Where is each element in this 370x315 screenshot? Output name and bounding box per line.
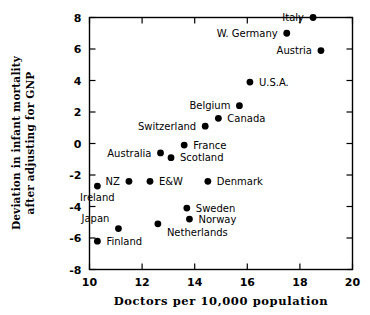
data-point-label: Japan [81, 213, 110, 224]
data-marker [181, 142, 188, 149]
x-axis-title: Doctors per 10,000 population [114, 294, 329, 308]
data-point-labels: ItalyW. GermanyAustriaU.S.A.BelgiumCanad… [80, 12, 312, 247]
data-marker [94, 238, 101, 245]
data-marker [115, 225, 122, 232]
data-point-label: NZ [106, 176, 120, 187]
data-marker [283, 30, 290, 37]
data-point-label: Netherlands [167, 227, 228, 238]
data-marker [310, 14, 317, 21]
data-point-label: U.S.A. [259, 77, 289, 88]
data-point-label: Finland [106, 236, 142, 247]
y-axis-title-group: Deviation in infant mortality after adju… [10, 55, 36, 230]
data-point-label: Norway [198, 214, 236, 225]
x-tick-label: 10 [82, 276, 98, 289]
data-marker [183, 205, 190, 212]
x-tick-label: 12 [134, 276, 149, 289]
data-point-label: Switzerland [138, 121, 196, 132]
data-point-label: Denmark [217, 176, 263, 187]
data-marker [168, 154, 175, 161]
y-tick-label: -2 [69, 169, 81, 182]
data-point-label: Sweden [196, 203, 236, 214]
data-point-label: Canada [227, 113, 265, 124]
y-tick-label: -6 [69, 232, 82, 245]
x-axis-tick-labels: 101214161820 [82, 276, 361, 289]
data-marker [94, 183, 101, 190]
data-marker [236, 102, 243, 109]
y-axis-title-line1: Deviation in infant mortality [10, 55, 22, 230]
y-tick-label: 8 [74, 12, 82, 25]
data-point-label: E&W [159, 176, 183, 187]
x-tick-label: 18 [292, 276, 307, 289]
data-marker [318, 47, 325, 54]
x-tick-label: 14 [187, 276, 203, 289]
data-point-label: Ireland [80, 192, 115, 203]
y-tick-label: 4 [74, 75, 82, 88]
x-tick-label: 16 [240, 276, 256, 289]
x-tick-label: 20 [345, 276, 361, 289]
y-tick-label: 6 [74, 43, 82, 56]
data-marker [247, 79, 254, 86]
data-point-label: Australia [107, 148, 151, 159]
data-marker [147, 178, 154, 185]
data-point-label: Scotland [180, 152, 223, 163]
scatter-plot-figure: 101214161820 86420-2-4-6-8 ItalyW. Germa… [0, 0, 370, 315]
data-marker [204, 178, 211, 185]
data-marker [126, 178, 133, 185]
y-tick-label: 0 [74, 138, 82, 151]
y-axis-tick-labels: 86420-2-4-6-8 [69, 12, 82, 277]
data-point-label: Belgium [189, 100, 230, 111]
y-tick-label: 2 [74, 106, 82, 119]
data-marker [186, 216, 193, 223]
y-tick-label: -8 [69, 264, 81, 277]
data-marker [202, 123, 209, 130]
data-marker [154, 220, 161, 227]
plot-canvas: 101214161820 86420-2-4-6-8 ItalyW. Germa… [0, 0, 370, 315]
data-point-label: Italy [282, 12, 304, 23]
data-point-label: W. Germany [217, 28, 278, 39]
data-point-label: France [193, 140, 226, 151]
data-marker [157, 150, 164, 157]
y-axis-title-line2: after adjusting for GNP [24, 72, 36, 215]
data-point-label: Austria [277, 45, 312, 56]
data-marker [215, 115, 222, 122]
